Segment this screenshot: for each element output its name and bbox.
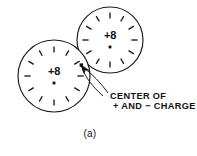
figure-container: +8+8 CENTER OF + AND − CHARGE (a) [0,0,197,156]
lower-left-atom: +8 [18,40,90,112]
intersection-marker [80,63,83,66]
callout-line-2: + AND − CHARGE [113,101,196,111]
nucleus-point-dot [53,82,56,85]
callout-line-1: CENTER OF [110,91,166,101]
atom-overlap-diagram: +8+8 CENTER OF + AND − CHARGE (a) [0,0,197,156]
nucleus-charge-label: +8 [48,65,60,77]
nucleus-charge-label: +8 [104,29,116,41]
nucleus-point-dot [109,46,112,49]
figure-caption: (a) [84,128,97,139]
